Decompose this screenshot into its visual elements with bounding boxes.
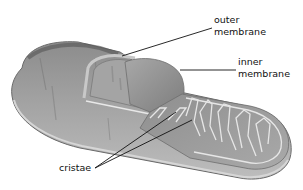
cristae-label: cristae (59, 162, 91, 174)
inner-membrane-label-line1: inner (238, 56, 290, 68)
outer-membrane-leader (122, 28, 212, 56)
outer-membrane-label-line1: outer (214, 14, 266, 26)
outer-membrane-label: outer membrane (214, 14, 266, 38)
outer-membrane-label-line2: membrane (214, 26, 266, 38)
inner-membrane-label: inner membrane (238, 56, 290, 80)
inner-membrane-label-line2: membrane (238, 68, 290, 80)
